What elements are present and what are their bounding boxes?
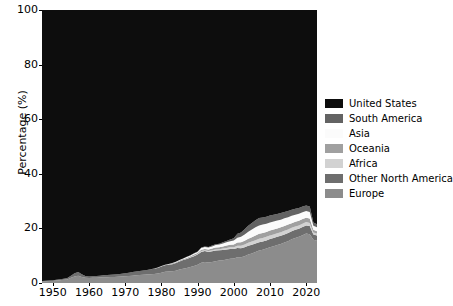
x-tick-label: 2010 xyxy=(256,286,284,299)
x-tick-label: 1960 xyxy=(75,286,103,299)
y-tick-mark xyxy=(39,228,42,229)
x-tick-mark xyxy=(89,283,90,286)
x-tick-mark xyxy=(53,283,54,286)
x-tick-label: 1950 xyxy=(39,286,67,299)
legend-item[interactable]: Asia xyxy=(325,126,451,141)
legend-item[interactable]: United States xyxy=(325,96,451,111)
y-tick-mark xyxy=(39,65,42,66)
legend-item-label: Africa xyxy=(349,158,378,169)
y-tick-mark xyxy=(39,174,42,175)
y-tick-mark xyxy=(39,283,42,284)
chart-legend: United StatesSouth AmericaAsiaOceaniaAfr… xyxy=(325,96,451,201)
legend-swatch-icon xyxy=(325,189,343,198)
legend-item-label: Oceania xyxy=(349,143,390,154)
x-tick-label: 1990 xyxy=(184,286,212,299)
x-tick-mark xyxy=(161,283,162,286)
x-tick-label: 1980 xyxy=(147,286,175,299)
legend-swatch-icon xyxy=(325,114,343,123)
legend-swatch-icon xyxy=(325,99,343,108)
legend-item-label: Other North America xyxy=(349,173,453,184)
legend-swatch-icon xyxy=(325,129,343,138)
legend-item-label: Europe xyxy=(349,188,384,199)
x-tick-mark xyxy=(198,283,199,286)
x-tick-mark xyxy=(306,283,307,286)
legend-item-label: United States xyxy=(349,98,417,109)
chart-figure: Percentage (%) 020406080100 195019601970… xyxy=(0,0,453,306)
legend-item[interactable]: Oceania xyxy=(325,141,451,156)
x-tick-mark xyxy=(125,283,126,286)
y-tick-mark xyxy=(39,10,42,11)
legend-item[interactable]: Africa xyxy=(325,156,451,171)
x-tick-label: 2020 xyxy=(292,286,320,299)
x-tick-mark xyxy=(234,283,235,286)
legend-item[interactable]: Other North America xyxy=(325,171,451,186)
x-tick-mark xyxy=(270,283,271,286)
legend-swatch-icon xyxy=(325,159,343,168)
legend-item-label: South America xyxy=(349,113,423,124)
legend-swatch-icon xyxy=(325,144,343,153)
legend-item[interactable]: South America xyxy=(325,111,451,126)
x-tick-label: 2000 xyxy=(220,286,248,299)
legend-item[interactable]: Europe xyxy=(325,186,451,201)
x-tick-label: 1970 xyxy=(111,286,139,299)
legend-swatch-icon xyxy=(325,174,343,183)
legend-item-label: Asia xyxy=(349,128,370,139)
y-tick-mark xyxy=(39,119,42,120)
